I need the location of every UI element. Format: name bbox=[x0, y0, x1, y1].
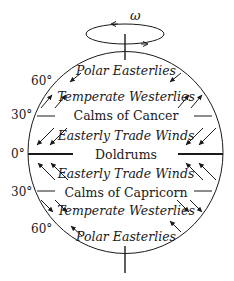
arrow-northwest-icon bbox=[38, 163, 55, 180]
arrow-northwest-icon bbox=[199, 163, 216, 180]
zone-label-calms-of-cancer: Calms of Cancer bbox=[74, 108, 179, 123]
zone-label-south-polar-easterlies: Polar Easterlies bbox=[75, 229, 176, 244]
arrow-northeast-icon bbox=[41, 95, 52, 108]
latitude-label-equator: 0° bbox=[11, 147, 25, 161]
latitude-label-30n: 30° bbox=[11, 108, 32, 122]
zone-label-south-temperate-westerlies: Temperate Westerlies bbox=[57, 203, 195, 218]
zone-label-south-trade-winds: Easterly Trade Winds bbox=[57, 166, 195, 181]
arrow-southwest-icon bbox=[37, 128, 54, 145]
wind-belts-diagram: ω 60° 30° 0° 30° 60° Polar Easterlies Te… bbox=[0, 0, 234, 281]
zone-label-north-temperate-westerlies: Temperate Westerlies bbox=[57, 89, 195, 104]
arrow-southwest-icon bbox=[199, 128, 216, 145]
omega-label: ω bbox=[130, 8, 141, 23]
latitude-label-60s: 60° bbox=[31, 222, 52, 236]
zone-label-doldrums: Doldrums bbox=[95, 147, 157, 162]
latitude-label-60n: 60° bbox=[31, 74, 52, 88]
zone-label-calms-of-capricorn: Calms of Capricorn bbox=[65, 185, 188, 200]
zone-label-north-trade-winds: Easterly Trade Winds bbox=[57, 128, 195, 143]
latitude-label-30s: 30° bbox=[11, 185, 32, 199]
zone-label-north-polar-easterlies: Polar Easterlies bbox=[75, 63, 176, 78]
